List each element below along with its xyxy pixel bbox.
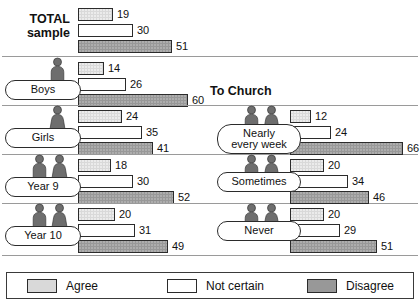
group-label-text-girls: Girls bbox=[32, 132, 55, 144]
bar-year-10-not_certain bbox=[78, 224, 135, 237]
bar-total-agree bbox=[78, 8, 113, 21]
bar-girls-not_certain bbox=[78, 126, 142, 139]
total-sample-line2: sample bbox=[8, 26, 70, 40]
legend-label-disagree: Disagree bbox=[346, 279, 394, 293]
bar-value-boys-agree: 14 bbox=[108, 62, 120, 75]
bar-value-year-9-not_certain: 30 bbox=[137, 175, 149, 188]
bar-value-sometimes-disagree: 46 bbox=[373, 191, 385, 204]
legend-label-agree: Agree bbox=[66, 279, 98, 293]
bar-year-10-agree bbox=[78, 208, 115, 221]
bar-year-9-agree bbox=[78, 159, 111, 172]
legend-label-not_certain: Not certain bbox=[206, 279, 264, 293]
legend-item-disagree: Disagree bbox=[307, 279, 394, 293]
group-label-text-year-10: Year 10 bbox=[24, 230, 62, 242]
group-label-text-never: Never bbox=[244, 225, 273, 237]
bar-girls-agree bbox=[78, 110, 122, 123]
to-church-heading: To Church bbox=[210, 84, 272, 98]
group-label-text2-nearly-every-week: every week bbox=[231, 139, 287, 151]
legend-swatch-disagree bbox=[307, 279, 337, 293]
group-label-boys: Boys bbox=[5, 80, 81, 100]
group-label-girls: Girls bbox=[5, 128, 81, 148]
group-label-sometimes: Sometimes bbox=[217, 172, 301, 192]
legend-swatch-not_certain bbox=[167, 279, 197, 293]
group-label-text-boys: Boys bbox=[31, 84, 55, 96]
bar-value-nearly-every-week-agree: 12 bbox=[315, 110, 327, 123]
stacked-group-bar-chart: TOTALsample193051Boys142660Girls243541Ye… bbox=[0, 0, 420, 307]
bar-value-nearly-every-week-disagree: 66 bbox=[407, 142, 419, 155]
legend-swatch-agree bbox=[27, 279, 57, 293]
bar-sometimes-disagree bbox=[290, 191, 369, 204]
bar-value-boys-not_certain: 26 bbox=[130, 78, 142, 91]
bar-value-nearly-every-week-not_certain: 24 bbox=[335, 126, 347, 139]
section-divider bbox=[2, 255, 418, 256]
bar-boys-not_certain bbox=[78, 78, 126, 91]
bar-value-total-disagree: 51 bbox=[176, 40, 188, 53]
legend-item-not_certain: Not certain bbox=[167, 279, 264, 293]
group-label-year-9: Year 9 bbox=[5, 177, 81, 197]
bar-value-year-10-not_certain: 31 bbox=[139, 224, 151, 237]
bar-year-10-disagree bbox=[78, 240, 168, 253]
bar-sometimes-agree bbox=[290, 159, 324, 172]
bar-nearly-every-week-disagree bbox=[290, 142, 403, 155]
bar-value-girls-not_certain: 35 bbox=[146, 126, 158, 139]
bar-never-disagree bbox=[290, 240, 377, 253]
total-sample-label: TOTALsample bbox=[8, 12, 70, 40]
bar-value-never-disagree: 51 bbox=[381, 240, 393, 253]
group-label-year-10: Year 10 bbox=[5, 226, 81, 246]
bar-total-not_certain bbox=[78, 24, 133, 37]
bar-total-disagree bbox=[78, 40, 172, 53]
group-label-never: Never bbox=[217, 221, 301, 241]
bar-value-never-agree: 20 bbox=[328, 208, 340, 221]
legend-item-agree: Agree bbox=[27, 279, 98, 293]
bar-value-never-not_certain: 29 bbox=[344, 224, 356, 237]
legend: AgreeNot certainDisagree bbox=[6, 272, 414, 299]
bar-value-total-agree: 19 bbox=[117, 8, 129, 21]
group-label-nearly-every-week: Nearlyevery week bbox=[217, 124, 301, 154]
bar-value-total-not_certain: 30 bbox=[137, 24, 149, 37]
bar-boys-agree bbox=[78, 62, 104, 75]
total-sample-line1: TOTAL bbox=[8, 12, 70, 26]
bar-value-year-9-agree: 18 bbox=[115, 159, 127, 172]
bar-year-9-not_certain bbox=[78, 175, 133, 188]
group-label-text-sometimes: Sometimes bbox=[231, 176, 286, 188]
bar-nearly-every-week-agree bbox=[290, 110, 311, 123]
bar-value-sometimes-not_certain: 34 bbox=[352, 175, 364, 188]
group-label-text-year-9: Year 9 bbox=[27, 181, 58, 193]
bar-value-year-10-disagree: 49 bbox=[172, 240, 184, 253]
bar-never-agree bbox=[290, 208, 324, 221]
bar-value-girls-agree: 24 bbox=[126, 110, 138, 123]
bar-value-year-10-agree: 20 bbox=[119, 208, 131, 221]
bar-value-sometimes-agree: 20 bbox=[328, 159, 340, 172]
